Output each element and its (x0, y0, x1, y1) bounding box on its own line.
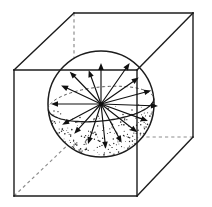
stipple-dot (104, 152, 105, 153)
stipple-dot (140, 124, 142, 126)
stipple-dot (126, 136, 127, 137)
stipple-dot (53, 110, 54, 111)
stipple-dot (97, 137, 98, 138)
stipple-dot (93, 119, 94, 120)
stipple-dot (114, 133, 115, 134)
stipple-dot (151, 112, 152, 113)
stipple-dot (79, 117, 81, 119)
stipple-dot (70, 142, 71, 143)
stipple-dot (118, 143, 119, 144)
stipple-dot (75, 143, 76, 144)
stipple-dot (102, 138, 103, 139)
stipple-dot (118, 125, 119, 126)
stipple-dot (128, 147, 129, 148)
stipple-dot (69, 134, 70, 135)
stipple-dot (86, 139, 87, 140)
stipple-dot (113, 138, 115, 140)
stipple-dot (129, 137, 130, 138)
stipple-dot (90, 131, 91, 132)
figure-root (0, 0, 212, 207)
stipple-dot (85, 135, 86, 136)
stipple-dot (63, 130, 64, 131)
stipple-dot (127, 134, 128, 135)
stipple-dot (99, 146, 100, 147)
cube-visible-edge-7 (137, 13, 193, 70)
stipple-dot (140, 133, 141, 134)
stipple-dot (71, 129, 73, 131)
stipple-dot (70, 136, 71, 137)
stipple-dot (94, 118, 95, 119)
stipple-dot (73, 140, 74, 141)
stipple-dot (84, 136, 86, 138)
stipple-dot (70, 134, 71, 135)
stipple-dot (141, 107, 142, 108)
sphere-in-cube-diagram (0, 0, 212, 207)
stipple-dot (112, 155, 113, 156)
stipple-dot (67, 128, 68, 129)
stipple-dot (67, 132, 68, 133)
stipple-dot (59, 122, 60, 123)
stipple-dot (69, 140, 70, 141)
stipple-dot (78, 149, 79, 150)
stipple-dot (124, 131, 125, 132)
stipple-dot (98, 116, 99, 117)
stipple-dot (74, 148, 75, 149)
stipple-dot (133, 132, 134, 133)
stipple-dot (88, 150, 89, 151)
stipple-dot (147, 112, 148, 113)
stipple-dot (66, 130, 67, 131)
stipple-dot (149, 115, 151, 117)
stipple-dot (86, 147, 87, 148)
cube-visible-edge-6 (14, 13, 74, 70)
stipple-dot (109, 152, 110, 153)
stipple-dot (123, 124, 125, 126)
stipple-dot (54, 121, 55, 122)
stipple-dot (99, 118, 100, 119)
stipple-dot (97, 147, 98, 148)
stipple-dot (60, 113, 61, 114)
stipple-dot (59, 132, 60, 133)
stipple-dot (73, 146, 74, 147)
stipple-dot (92, 132, 94, 134)
stipple-dot (118, 151, 120, 153)
stipple-dot (134, 139, 135, 140)
stipple-dot (124, 120, 125, 121)
stipple-dot (52, 123, 53, 124)
stipple-dot (138, 122, 139, 123)
stipple-dot (116, 149, 117, 150)
stipple-dot (110, 145, 111, 146)
stipple-dot (113, 143, 114, 144)
stipple-dot (64, 138, 65, 139)
stipple-dot (124, 136, 125, 137)
stipple-dot (88, 131, 89, 132)
stipple-dot (81, 151, 82, 152)
stipple-dot (144, 112, 145, 113)
stipple-dot (132, 136, 133, 137)
stipple-dot (143, 133, 144, 134)
stipple-dot (74, 143, 75, 144)
stipple-dot (99, 154, 100, 155)
stipple-dot (103, 154, 105, 156)
stipple-dot (107, 133, 108, 134)
stipple-dot (117, 141, 118, 142)
stipple-dot (129, 145, 130, 146)
stipple-dot (77, 125, 78, 126)
stipple-dot (73, 147, 74, 148)
stipple-dot (55, 123, 56, 124)
stipple-dot (103, 155, 104, 156)
stipple-dot (134, 143, 135, 144)
stipple-dot (52, 120, 53, 121)
stipple-dot (132, 144, 133, 145)
stipple-dot (145, 123, 146, 124)
stipple-dot (84, 144, 85, 145)
stipple-dot (141, 114, 142, 115)
stipple-dot (131, 109, 133, 111)
stipple-dot (120, 121, 122, 123)
stipple-dot (127, 147, 129, 149)
stipple-dot (95, 133, 97, 135)
stipple-dot (94, 139, 95, 140)
stipple-dot (145, 115, 146, 116)
cube-hidden-edge-2 (14, 139, 74, 196)
stipple-dot (94, 132, 96, 134)
stipple-dot (81, 135, 82, 136)
